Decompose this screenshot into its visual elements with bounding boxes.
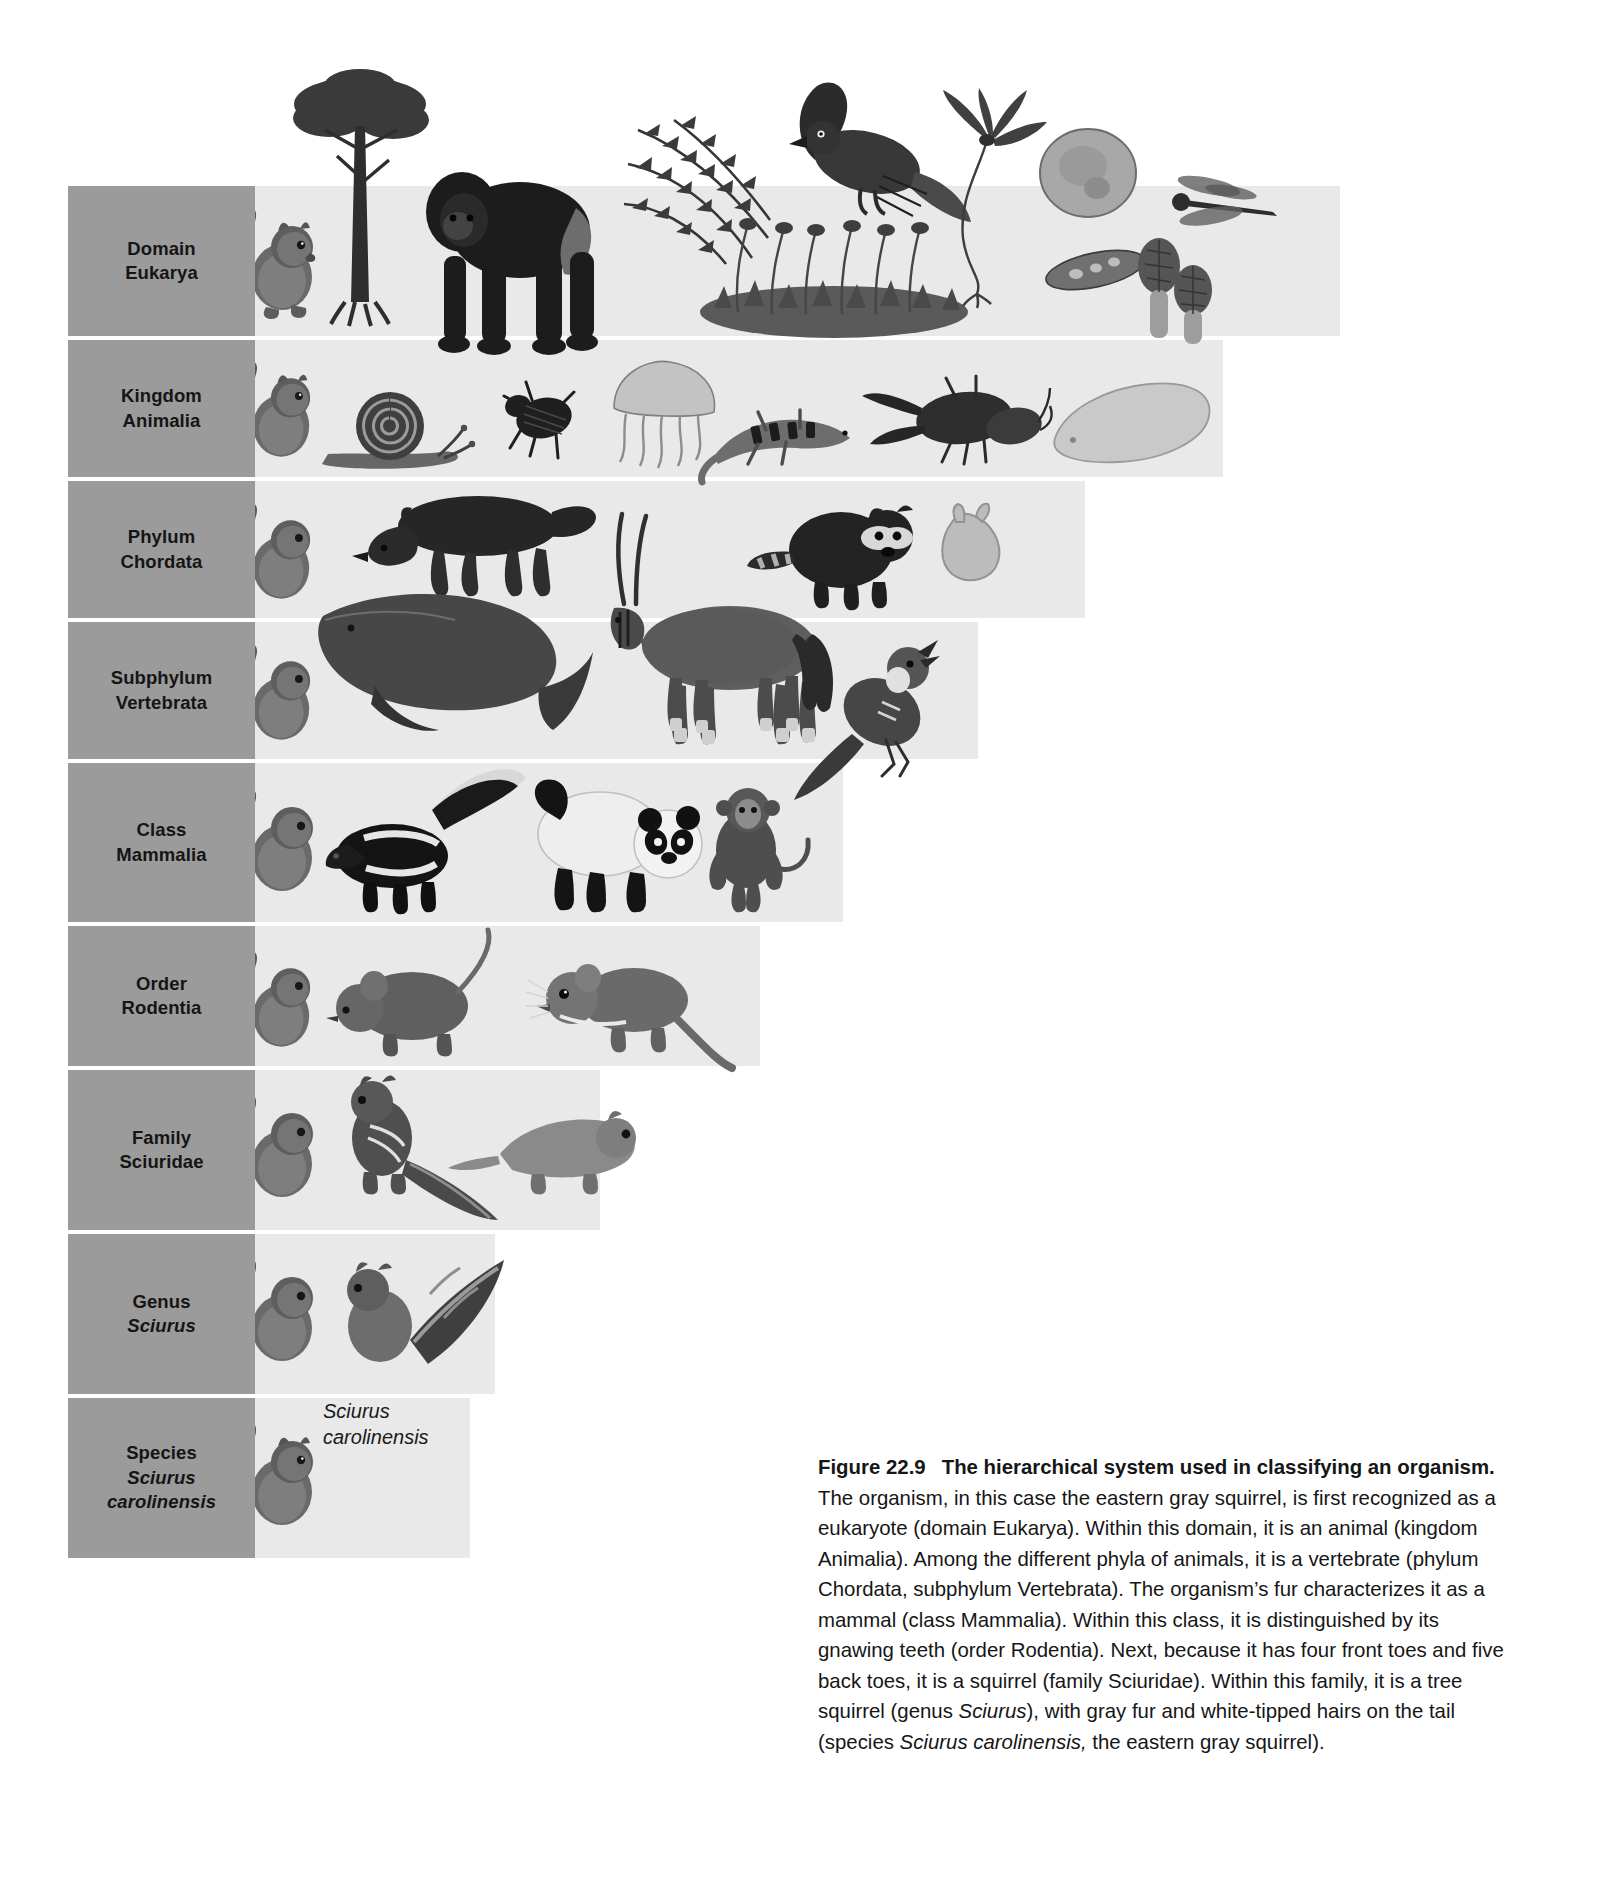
species-inline-label: Sciuruscarolinensis: [323, 1398, 429, 1450]
rank-label-panel-family: Family Sciuridae: [68, 1070, 255, 1230]
rank-label-panel-species: Species Sciuruscarolinensis: [68, 1398, 255, 1558]
taxon-name-kingdom: Animalia: [121, 409, 202, 433]
organism-flatworm: [1045, 368, 1215, 468]
rank-name-order: Order: [122, 972, 202, 996]
organism-monkey: [690, 778, 820, 918]
figure-title: The hierarchical system used in classify…: [942, 1456, 1495, 1478]
rank-label-panel-order: Order Rodentia: [68, 926, 255, 1066]
organism-snail: [312, 386, 472, 476]
rank-label-phylum: Phylum Chordata: [115, 525, 209, 574]
taxonomic-hierarchy-figure: Domain Eukarya Kingdom Animalia Phylum C…: [0, 0, 1606, 1898]
organism-crayfish: [860, 364, 1050, 474]
organism-whale: [315, 580, 595, 750]
organism-kangaroo-rat: [506, 948, 736, 1088]
rank-name-subphylum: Subphylum: [111, 666, 213, 690]
taxon-name-genus: Sciurus: [127, 1314, 196, 1338]
organism-fox-squirrel: [318, 1240, 508, 1390]
figure-number-label: Figure 22.9: [818, 1456, 926, 1478]
rank-name-species: Species: [107, 1441, 216, 1465]
organism-amoeba: [1035, 120, 1141, 226]
organism-lizard: [700, 398, 860, 484]
organism-beetle: [492, 376, 596, 462]
organism-gorilla: [408, 148, 608, 356]
rank-label-kingdom: Kingdom Animalia: [115, 384, 208, 433]
organism-tunicate: [930, 500, 1010, 586]
rank-label-class: Class Mammalia: [110, 818, 212, 867]
organism-morel-mushrooms: [1125, 232, 1225, 350]
organism-panda: [512, 772, 712, 922]
rank-label-panel-subphylum: Subphylum Vertebrata: [68, 622, 255, 759]
taxon-name-phylum: Chordata: [121, 550, 203, 574]
rank-label-panel-class: Class Mammalia: [68, 763, 255, 922]
organism-songbird: [790, 632, 940, 802]
organism-flying-squirrel: [448, 1098, 648, 1208]
taxon-name-order: Rodentia: [122, 996, 202, 1020]
taxon-name-class: Mammalia: [116, 843, 206, 867]
rank-label-genus: Genus Sciurus: [121, 1290, 202, 1339]
rank-name-family: Family: [119, 1126, 203, 1150]
figure-body-text: The organism, in this case the eastern g…: [818, 1487, 1504, 1753]
organism-mouse: [316, 930, 526, 1060]
taxon-name-family: Sciuridae: [119, 1150, 203, 1174]
taxon-name-domain: Eukarya: [125, 261, 198, 285]
rank-label-family: Family Sciuridae: [113, 1126, 209, 1175]
rank-label-domain: Domain Eukarya: [119, 237, 204, 286]
rank-label-species: Species Sciuruscarolinensis: [101, 1441, 222, 1514]
rank-label-panel-genus: Genus Sciurus: [68, 1234, 255, 1394]
rank-name-phylum: Phylum: [121, 525, 203, 549]
organism-skunk: [320, 764, 530, 924]
rank-name-class: Class: [116, 818, 206, 842]
rank-label-panel-domain: Domain Eukarya: [68, 186, 255, 336]
rank-name-kingdom: Kingdom: [121, 384, 202, 408]
rank-label-panel-phylum: Phylum Chordata: [68, 481, 255, 618]
rank-label-panel-kingdom: Kingdom Animalia: [68, 340, 255, 477]
taxon-name-species: Sciuruscarolinensis: [107, 1466, 216, 1515]
rank-name-genus: Genus: [127, 1290, 196, 1314]
figure-caption: Figure 22.9The hierarchical system used …: [818, 1452, 1518, 1757]
rank-name-domain: Domain: [125, 237, 198, 261]
organism-dragonfly: [1165, 168, 1285, 234]
rank-label-order: Order Rodentia: [116, 972, 208, 1021]
rank-label-subphylum: Subphylum Vertebrata: [105, 666, 219, 715]
taxon-name-subphylum: Vertebrata: [111, 691, 213, 715]
